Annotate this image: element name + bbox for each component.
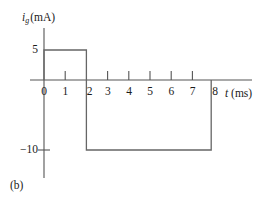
figure-panel: ig (mA) t (ms) 5 −10 0 1 2 3 4 5 6 7 8 (… bbox=[0, 0, 270, 203]
x-tick-label-8: 8 bbox=[206, 86, 224, 98]
x-axis-label: t (ms) bbox=[225, 88, 252, 100]
y-axis-label: ig (mA) bbox=[22, 12, 55, 25]
x-tick-label-7: 7 bbox=[184, 86, 202, 98]
y-axis-unit: (mA) bbox=[30, 11, 55, 23]
current-waveform-trace bbox=[44, 50, 211, 150]
x-tick-label-4: 4 bbox=[120, 86, 138, 98]
x-tick-label-6: 6 bbox=[162, 86, 180, 98]
x-axis-unit: (ms) bbox=[231, 87, 252, 99]
x-axis-symbol: t bbox=[225, 87, 228, 99]
x-tick-marks bbox=[65, 71, 192, 80]
y-tick-label-5: 5 bbox=[12, 44, 38, 56]
y-axis-subscript: g bbox=[25, 16, 29, 25]
x-tick-label-2: 2 bbox=[81, 86, 99, 98]
x-tick-label-5: 5 bbox=[141, 86, 159, 98]
x-tick-label-3: 3 bbox=[99, 86, 117, 98]
waveform-plot bbox=[0, 0, 270, 203]
x-tick-label-1: 1 bbox=[56, 86, 74, 98]
x-tick-label-0: 0 bbox=[35, 86, 53, 98]
y-tick-label-minus-10: −10 bbox=[4, 144, 38, 156]
figure-caption: (b) bbox=[10, 180, 23, 192]
